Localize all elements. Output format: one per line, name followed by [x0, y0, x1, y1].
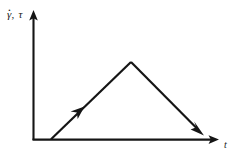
gamma-dot-symbol: γ — [7, 9, 12, 20]
ramp-down-segment — [131, 62, 197, 129]
tau-symbol: τ — [18, 8, 22, 20]
figure-container: γ, τ t — [0, 0, 240, 157]
ramp-up-segment — [51, 62, 131, 139]
x-axis-label: t — [224, 140, 227, 150]
ramp-plot-svg — [0, 0, 240, 157]
y-axis-label: γ, τ — [7, 9, 23, 20]
